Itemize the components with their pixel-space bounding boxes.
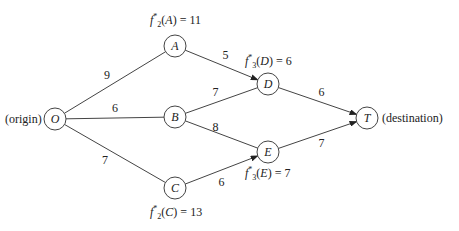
edge-D-T <box>278 88 356 115</box>
node-label-B: B <box>164 111 186 123</box>
node-label-D: D <box>257 78 279 90</box>
edge-B-E <box>185 121 257 148</box>
edge-weight-A-D: 5 <box>223 49 229 61</box>
edge-O-C <box>65 124 166 182</box>
edge-B-D <box>185 88 257 114</box>
optimal-value-annotation-E: f*3(E) = 7 <box>245 167 290 179</box>
node-label-O: O <box>44 113 66 125</box>
optimal-value-annotation-D: f*3(D) = 6 <box>245 55 292 67</box>
node-label-E: E <box>257 146 279 158</box>
edge-weight-O-A: 9 <box>104 69 110 81</box>
optimal-value-annotation-C: f*2(C) = 13 <box>150 206 202 218</box>
node-label-C: C <box>164 182 186 194</box>
origin-label: (origin) <box>5 113 42 125</box>
node-label-A: A <box>164 40 186 52</box>
node-label-T: T <box>356 112 378 124</box>
edge-weight-C-E: 6 <box>219 176 225 188</box>
edge-weight-D-T: 6 <box>319 86 325 98</box>
destination-label: (destination) <box>382 112 443 124</box>
edge-weight-O-C: 7 <box>102 154 108 166</box>
optimal-value-annotation-A: f*2(A) = 11 <box>150 14 201 26</box>
edge-O-B <box>66 117 164 119</box>
edge-weight-B-E: 8 <box>213 121 219 133</box>
edge-weight-B-D: 7 <box>213 86 219 98</box>
edge-weight-O-B: 6 <box>112 102 118 114</box>
edge-weight-E-T: 7 <box>319 137 325 149</box>
edge-E-T <box>278 122 356 149</box>
